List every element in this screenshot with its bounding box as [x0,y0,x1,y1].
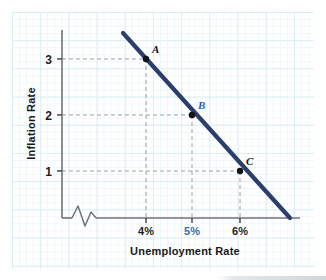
y-axis-title: Inflation Rate [26,69,37,179]
point-label-c: C [246,156,253,167]
x-axis-title: Unemployment Rate [85,246,285,257]
x-tick-label-4pct: 4% [129,226,163,237]
point-label-b: B [198,100,205,111]
y-tick-label-1: 1 [38,166,52,178]
phillips-curve-figure: 3 2 1 4% 5% 6% A B C Unemployment Rate I… [0,0,326,280]
guide-lines-point-a [62,59,146,218]
y-tick-label-3: 3 [38,54,52,66]
data-point-a [143,56,149,62]
guide-lines-point-b [62,115,192,218]
data-point-b [189,112,195,118]
bottom-edge-strip [0,276,326,280]
data-point-c [237,168,243,174]
y-tick-label-2: 2 [38,110,52,122]
point-label-a: A [152,44,159,55]
x-axis-break-zigzag [72,206,96,226]
guide-lines-point-c [62,171,240,218]
x-tick-label-6pct: 6% [223,226,257,237]
x-tick-label-5pct: 5% [175,226,209,237]
chart-canvas [0,0,326,280]
